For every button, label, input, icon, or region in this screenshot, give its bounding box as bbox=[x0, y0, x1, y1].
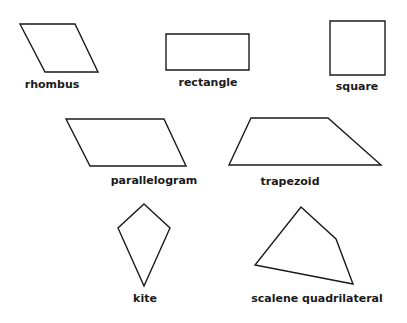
rectangle-group: rectangle bbox=[166, 34, 249, 89]
scalene-quadrilateral-group: scalene quadrilateral bbox=[251, 207, 383, 305]
trapezoid-group: trapezoid bbox=[229, 118, 381, 188]
trapezoid-label: trapezoid bbox=[260, 175, 319, 188]
scalene-quadrilateral-shape bbox=[255, 207, 353, 284]
kite-shape bbox=[118, 204, 170, 286]
square-group: square bbox=[330, 21, 385, 93]
square-label: square bbox=[336, 80, 379, 93]
rectangle-label: rectangle bbox=[178, 76, 237, 89]
parallelogram-group: parallelogram bbox=[66, 119, 197, 187]
kite-label: kite bbox=[133, 292, 157, 305]
square-shape bbox=[330, 21, 385, 75]
scalene-quadrilateral-label: scalene quadrilateral bbox=[251, 292, 383, 305]
rhombus-label: rhombus bbox=[25, 78, 80, 91]
quadrilaterals-diagram: rhombus rectangle square parallelogram t… bbox=[0, 0, 407, 323]
rhombus-shape bbox=[20, 24, 98, 72]
parallelogram-shape bbox=[66, 119, 186, 166]
kite-group: kite bbox=[118, 204, 170, 305]
trapezoid-shape bbox=[229, 118, 381, 165]
rectangle-shape bbox=[166, 34, 249, 70]
parallelogram-label: parallelogram bbox=[111, 174, 198, 187]
rhombus-group: rhombus bbox=[20, 24, 98, 91]
